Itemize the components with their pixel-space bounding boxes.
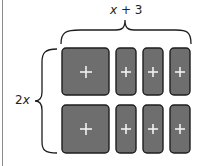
x-squared-tile [62,105,109,153]
left-brace-icon [35,49,57,153]
x-tile [170,48,190,95]
x-tile [116,105,136,153]
x-tile [143,48,163,95]
x-squared-tile [62,48,109,95]
x-tile [143,105,163,153]
tile-row-2 [62,105,190,153]
tile-row-1 [62,48,190,95]
algebra-tile-diagram [0,0,201,166]
top-brace-icon [61,20,191,44]
x-tile [116,48,136,95]
x-tile [170,105,190,153]
